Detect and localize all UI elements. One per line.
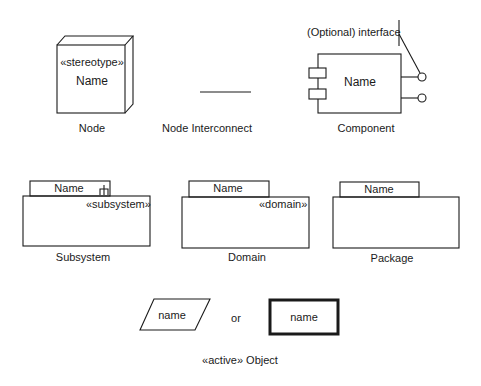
package-shape (333, 182, 459, 248)
domain-stereotype: «domain» (259, 198, 307, 210)
interconnect-caption: Node Interconnect (162, 122, 252, 134)
package-caption: Package (371, 252, 414, 264)
package-name: Name (364, 183, 393, 195)
subsystem-shape (23, 181, 150, 246)
parallelogram-name: name (158, 309, 186, 321)
active-object-caption: «active» Object (202, 354, 278, 366)
interface-label: (Optional) interface (307, 26, 401, 38)
subsystem-name: Name (54, 182, 83, 194)
component-caption: Component (338, 122, 395, 134)
subsystem-caption: Subsystem (56, 251, 110, 263)
subsystem-stereotype: «subsystem» (86, 198, 151, 210)
domain-shape (182, 181, 309, 248)
node-name: Name (76, 75, 108, 87)
active-box-name: name (290, 311, 318, 323)
domain-caption: Domain (228, 251, 266, 263)
node-caption: Node (79, 122, 105, 134)
or-label: or (231, 312, 241, 324)
component-name: Name (344, 76, 376, 88)
domain-name: Name (213, 182, 242, 194)
node-stereotype: «stereotype» (60, 56, 124, 68)
